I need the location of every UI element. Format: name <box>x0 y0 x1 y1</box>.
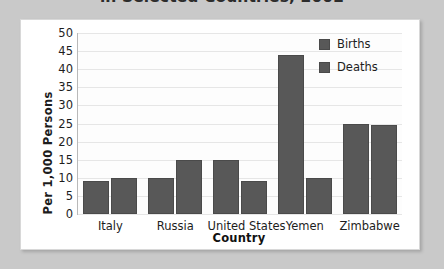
y-axis-tick-label: 10 <box>58 171 73 185</box>
y-axis-tick-label: 30 <box>58 98 73 112</box>
bar-deaths-zimbabwe <box>371 125 397 214</box>
y-axis-tick-label: 15 <box>58 153 73 167</box>
bar-births-yemen <box>278 55 304 214</box>
legend-item-deaths: Deaths <box>319 60 378 74</box>
y-axis-tick-label: 45 <box>58 44 73 58</box>
legend-item-births: Births <box>319 37 378 51</box>
y-axis-title-label: Per 1,000 Persons <box>41 78 55 228</box>
y-axis-tick-label: 40 <box>58 62 73 76</box>
y-axis-tick-label: 5 <box>66 189 73 203</box>
legend-swatch-deaths <box>319 62 330 73</box>
bar-deaths-italy <box>111 178 137 214</box>
page-title: in Selected Countries, 2002 <box>0 0 444 6</box>
y-axis-tick-label: 25 <box>58 117 73 131</box>
legend-swatch-births <box>319 39 330 50</box>
chart-card: Per 1,000 Persons 50454035302520151050 I… <box>20 19 420 250</box>
chart-title-strip: in Selected Countries, 2002 <box>0 0 444 13</box>
y-axis-tick-label: 20 <box>58 135 73 149</box>
bar-births-united-states <box>213 160 239 214</box>
bar-group: Italy <box>78 33 143 214</box>
bar-births-zimbabwe <box>343 124 369 215</box>
bar-group: Russia <box>143 33 208 214</box>
bar-group: United States <box>208 33 273 214</box>
legend-label-births: Births <box>337 37 371 51</box>
y-axis-tick-label: 35 <box>58 80 73 94</box>
y-axis-title: Per 1,000 Persons <box>19 0 33 78</box>
y-axis-tick-label: 50 <box>58 26 73 40</box>
bar-births-italy <box>83 181 109 214</box>
bar-deaths-russia <box>176 160 202 214</box>
bar-deaths-united-states <box>241 181 267 214</box>
x-axis-title: Country <box>77 231 401 245</box>
bar-births-russia <box>148 178 174 214</box>
y-axis-tick-label: 0 <box>66 207 73 221</box>
chart-legend: Births Deaths <box>319 37 378 83</box>
gridline <box>78 214 402 215</box>
legend-label-deaths: Deaths <box>337 60 378 74</box>
bar-deaths-yemen <box>306 178 332 214</box>
